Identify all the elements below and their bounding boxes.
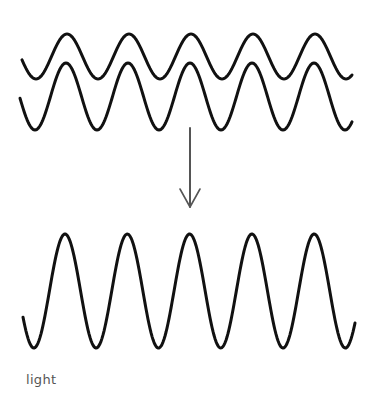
down-arrow-icon: [180, 128, 200, 207]
input-wave-2: [20, 63, 352, 130]
light-label: light: [26, 372, 56, 387]
combined-wave: [23, 234, 355, 348]
interference-diagram: [0, 0, 389, 401]
input-wave-1: [22, 34, 352, 79]
